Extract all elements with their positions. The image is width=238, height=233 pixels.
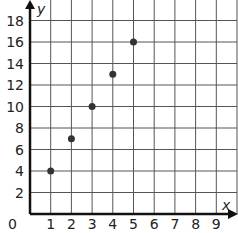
y-tick-label: 2 <box>15 185 24 201</box>
data-point <box>109 71 116 78</box>
x-tick-label: 8 <box>191 216 200 232</box>
x-tick-label: 5 <box>129 216 138 232</box>
y-axis-label: y <box>36 1 46 17</box>
x-tick-label: 7 <box>170 216 179 232</box>
scatter-chart: 12345678924681012141618 x y 0 <box>0 0 238 232</box>
tick-labels: 12345678924681012141618 <box>6 13 221 233</box>
x-tick-label: 2 <box>67 216 76 232</box>
y-tick-label: 12 <box>6 77 24 93</box>
y-tick-label: 8 <box>15 120 24 136</box>
y-tick-label: 4 <box>15 163 24 179</box>
y-axis-arrow-icon <box>25 0 35 9</box>
data-point <box>47 168 54 175</box>
origin-label: 0 <box>8 216 17 232</box>
data-point <box>130 39 137 46</box>
y-tick-label: 6 <box>15 142 24 158</box>
x-tick-label: 1 <box>46 216 55 232</box>
grid <box>30 0 237 214</box>
axes <box>25 0 238 219</box>
x-tick-label: 6 <box>150 216 159 232</box>
data-point <box>89 103 96 110</box>
y-tick-label: 10 <box>6 99 24 115</box>
y-tick-label: 14 <box>6 56 24 72</box>
x-tick-label: 4 <box>108 216 117 232</box>
x-tick-label: 3 <box>88 216 97 232</box>
y-tick-label: 16 <box>6 34 24 50</box>
y-tick-label: 18 <box>6 13 24 29</box>
x-axis-label: x <box>221 197 231 213</box>
x-tick-label: 9 <box>212 216 221 232</box>
data-point <box>68 135 75 142</box>
